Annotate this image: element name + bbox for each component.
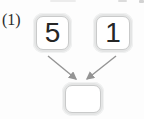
- problem-number-label: (1): [2, 10, 21, 30]
- answer-value[interactable]: [65, 85, 101, 113]
- addend-value-right: 1: [96, 16, 130, 50]
- addend-box-right: 1: [93, 13, 133, 53]
- addend-value-left: 5: [36, 16, 69, 50]
- addend-box-left: 5: [33, 13, 72, 53]
- worksheet-fragment: (1) 5 1: [0, 0, 144, 119]
- answer-box[interactable]: [62, 82, 104, 116]
- scan-artifact: [50, 0, 76, 2]
- arrow-right-to-answer: [87, 56, 116, 79]
- scan-artifact: [139, 0, 144, 3]
- scan-artifact: [118, 0, 127, 2]
- arrow-left-to-answer: [48, 56, 76, 79]
